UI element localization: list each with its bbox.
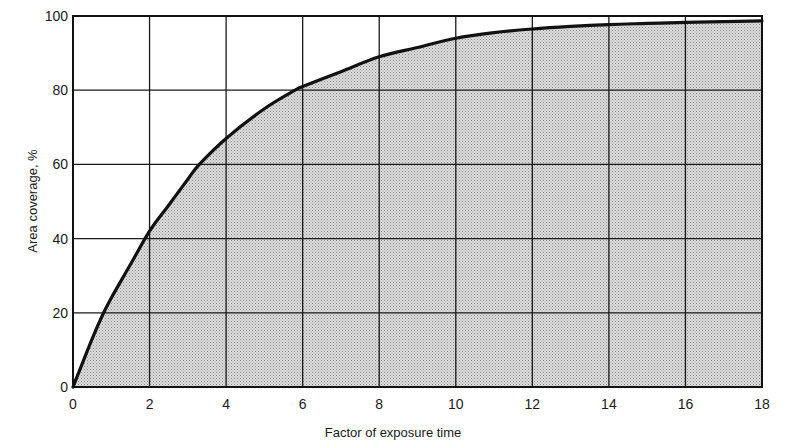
x-tick-label: 18: [754, 396, 770, 412]
x-tick-label: 16: [678, 396, 694, 412]
y-tick-label: 40: [52, 231, 68, 247]
x-tick-label: 10: [448, 396, 464, 412]
y-tick-label: 20: [52, 305, 68, 321]
x-tick-label: 2: [146, 396, 154, 412]
x-axis-ticks: 024681012141618: [69, 396, 770, 412]
x-tick-label: 6: [299, 396, 307, 412]
y-axis-title: Area coverage, %: [25, 149, 40, 253]
y-tick-label: 100: [45, 8, 69, 24]
x-tick-label: 12: [525, 396, 541, 412]
x-axis-title: Factor of exposure time: [325, 425, 462, 440]
x-tick-label: 8: [375, 396, 383, 412]
x-tick-label: 0: [69, 396, 77, 412]
y-tick-label: 80: [52, 82, 68, 98]
x-tick-label: 14: [601, 396, 617, 412]
y-tick-label: 60: [52, 156, 68, 172]
area-coverage-chart: 024681012141618 020406080100 Factor of e…: [0, 0, 786, 444]
x-tick-label: 4: [222, 396, 230, 412]
area-fill: [73, 21, 762, 387]
y-tick-label: 0: [60, 379, 68, 395]
y-axis-ticks: 020406080100: [45, 8, 69, 395]
